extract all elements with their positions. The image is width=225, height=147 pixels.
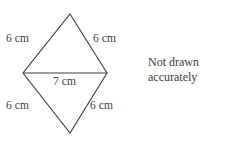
label-horizontal-diagonal: 7 cm: [53, 76, 76, 88]
note-line-2: accurately: [148, 70, 222, 85]
label-top-left-side: 6 cm: [6, 33, 29, 45]
label-top-right-side: 6 cm: [93, 33, 116, 45]
label-bottom-right-side: 6 cm: [90, 100, 113, 112]
label-bottom-left-side: 6 cm: [6, 100, 29, 112]
not-drawn-accurately-note: Not drawn accurately: [148, 55, 222, 85]
geometry-figure: 6 cm 6 cm 7 cm 6 cm 6 cm Not drawn accur…: [0, 0, 225, 147]
note-line-1: Not drawn: [148, 55, 222, 70]
